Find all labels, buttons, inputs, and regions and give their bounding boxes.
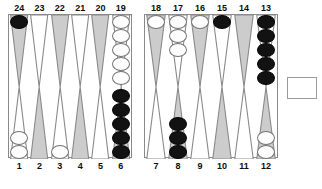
point-label-row-top-left: 242322212019 (9, 2, 131, 14)
point-13[interactable] (255, 15, 277, 87)
point-label-8: 8 (167, 160, 189, 172)
point-15[interactable] (211, 15, 233, 87)
point-label-row-bottom-left: 123456 (9, 160, 131, 172)
point-11[interactable] (233, 87, 255, 159)
point-9[interactable] (189, 87, 211, 159)
point-3[interactable] (50, 87, 70, 159)
point-label-23: 23 (29, 2, 49, 14)
point-label-12: 12 (255, 160, 277, 172)
point-triangle-15 (211, 15, 233, 87)
quadrant-top-left (9, 15, 131, 87)
point-label-5: 5 (90, 160, 110, 172)
point-triangle-1 (9, 87, 29, 159)
point-label-24: 24 (9, 2, 29, 14)
point-label-20: 20 (90, 2, 110, 14)
point-label-3: 3 (50, 160, 70, 172)
point-triangle-23 (29, 15, 49, 87)
point-triangle-21 (70, 15, 90, 87)
point-label-2: 2 (29, 160, 49, 172)
quadrant-bottom-left (9, 87, 131, 159)
point-triangle-3 (50, 87, 70, 159)
point-1[interactable] (9, 87, 29, 159)
point-label-7: 7 (145, 160, 167, 172)
point-label-6: 6 (111, 160, 131, 172)
point-triangle-22 (50, 15, 70, 87)
point-triangle-14 (233, 15, 255, 87)
point-10[interactable] (211, 87, 233, 159)
point-label-18: 18 (145, 2, 167, 14)
bearoff-tray[interactable] (287, 77, 317, 99)
point-triangle-11 (233, 87, 255, 159)
backgammon-board: 242322212019 181716151413 123456 7891011… (0, 0, 322, 189)
point-triangle-9 (189, 87, 211, 159)
point-triangle-17 (167, 15, 189, 87)
point-16[interactable] (189, 15, 211, 87)
board-bar[interactable] (131, 14, 145, 158)
point-7[interactable] (145, 87, 167, 159)
point-4[interactable] (70, 87, 90, 159)
point-label-22: 22 (50, 2, 70, 14)
point-triangle-16 (189, 15, 211, 87)
point-label-21: 21 (70, 2, 90, 14)
point-triangle-5 (90, 87, 110, 159)
point-triangle-18 (145, 15, 167, 87)
point-18[interactable] (145, 15, 167, 87)
point-triangle-13 (255, 15, 277, 87)
point-14[interactable] (233, 15, 255, 87)
point-label-16: 16 (189, 2, 211, 14)
point-label-15: 15 (211, 2, 233, 14)
point-triangle-6 (111, 87, 131, 159)
point-triangle-8 (167, 87, 189, 159)
point-label-9: 9 (189, 160, 211, 172)
point-label-19: 19 (111, 2, 131, 14)
quadrant-bottom-right (145, 87, 277, 159)
point-24[interactable] (9, 15, 29, 87)
point-triangle-4 (70, 87, 90, 159)
point-2[interactable] (29, 87, 49, 159)
point-22[interactable] (50, 15, 70, 87)
point-label-4: 4 (70, 160, 90, 172)
point-21[interactable] (70, 15, 90, 87)
point-8[interactable] (167, 87, 189, 159)
quadrant-top-right (145, 15, 277, 87)
point-triangle-7 (145, 87, 167, 159)
point-triangle-20 (90, 15, 110, 87)
point-label-11: 11 (233, 160, 255, 172)
point-5[interactable] (90, 87, 110, 159)
point-6[interactable] (111, 87, 131, 159)
point-17[interactable] (167, 15, 189, 87)
point-triangle-19 (111, 15, 131, 87)
point-triangle-24 (9, 15, 29, 87)
point-label-1: 1 (9, 160, 29, 172)
point-label-10: 10 (211, 160, 233, 172)
point-label-14: 14 (233, 2, 255, 14)
point-label-13: 13 (255, 2, 277, 14)
point-label-row-bottom-right: 789101112 (145, 160, 277, 172)
point-20[interactable] (90, 15, 110, 87)
point-23[interactable] (29, 15, 49, 87)
point-triangle-10 (211, 87, 233, 159)
point-19[interactable] (111, 15, 131, 87)
point-label-17: 17 (167, 2, 189, 14)
point-triangle-2 (29, 87, 49, 159)
point-triangle-12 (255, 87, 277, 159)
point-12[interactable] (255, 87, 277, 159)
point-label-row-top-right: 181716151413 (145, 2, 277, 14)
